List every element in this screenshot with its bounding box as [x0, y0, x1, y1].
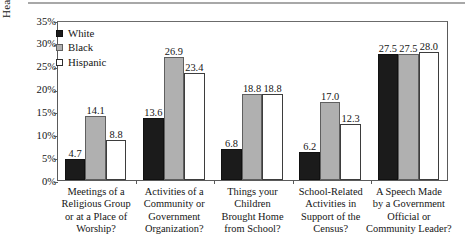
- legend-swatch-white-icon: [56, 30, 63, 37]
- x-category-line: Activities of a: [131, 186, 217, 198]
- x-category-line: Community or: [131, 198, 217, 210]
- bar-value-label: 18.8: [263, 83, 281, 94]
- bar-hispanic-group4: 12.3: [340, 124, 361, 180]
- legend-item-black: Black: [56, 41, 130, 56]
- legend-label-hispanic: Hispanic: [68, 57, 106, 68]
- y-tick-mark: [54, 91, 58, 92]
- x-tick-mark: [371, 180, 372, 184]
- bar-value-label: 6.8: [225, 138, 238, 149]
- bar-white-group3: 6.8: [221, 149, 242, 180]
- chart-legend: White Black Hispanic: [56, 26, 130, 70]
- bar-black-group4: 17.0: [320, 102, 341, 180]
- x-category-label: School-RelatedActivities inSupport of th…: [288, 186, 374, 235]
- bar-value-label: 6.2: [303, 141, 316, 152]
- x-category-line: from School?: [209, 223, 295, 235]
- bar-black-group5: 27.5: [398, 54, 419, 180]
- x-category-line: Census?: [288, 223, 374, 235]
- bar-black-group3: 18.8: [242, 94, 263, 180]
- x-category-label: Activities of aCommunity orGovernmentOrg…: [131, 186, 217, 235]
- bar-value-label: 26.9: [165, 46, 183, 57]
- bar-black-group1: 14.1: [85, 116, 106, 180]
- legend-item-hispanic: Hispanic: [56, 55, 130, 70]
- page-top-rule: [28, 2, 465, 4]
- bar-value-label: 4.7: [69, 148, 82, 159]
- y-tick-label: 25%: [20, 61, 56, 72]
- bar-value-label: 23.4: [185, 62, 203, 73]
- bar-black-group2: 26.9: [164, 57, 185, 180]
- y-tick-label: 0%: [20, 176, 56, 187]
- bar-chart: Heard from the Group 35%30%25%20%15%10%5…: [0, 0, 465, 250]
- y-axis-title: Heard from the Group: [0, 0, 14, 48]
- x-tick-mark: [293, 180, 294, 184]
- bar-value-label: 27.5: [399, 43, 417, 54]
- bar-value-label: 8.8: [110, 129, 123, 140]
- x-category-line: Religious Group: [53, 198, 139, 210]
- y-tick-mark: [54, 22, 58, 23]
- bar-value-label: 27.5: [379, 43, 397, 54]
- y-axis-tick-labels: 35%30%25%20%15%10%5%0%: [20, 14, 56, 189]
- x-tick-mark: [136, 180, 137, 184]
- x-category-line: Meetings of a: [53, 186, 139, 198]
- x-category-label: Things yourChildrenBrought Homefrom Scho…: [209, 186, 295, 235]
- y-tick-label: 15%: [20, 107, 56, 118]
- x-category-line: Support of the: [288, 211, 374, 223]
- x-category-line: Activities in: [288, 198, 374, 210]
- x-category-line: by a Government: [366, 198, 452, 210]
- bar-hispanic-group5: 28.0: [419, 52, 440, 180]
- legend-swatch-black-icon: [56, 44, 63, 51]
- x-category-line: Government: [131, 211, 217, 223]
- bar-hispanic-group3: 18.8: [262, 94, 283, 180]
- legend-label-black: Black: [68, 42, 93, 53]
- bar-white-group4: 6.2: [299, 152, 320, 180]
- y-tick-mark: [54, 182, 58, 183]
- bar-white-group1: 4.7: [65, 159, 86, 180]
- legend-swatch-hispanic-icon: [56, 59, 63, 66]
- bar-white-group2: 13.6: [143, 118, 164, 180]
- bar-white-group5: 27.5: [378, 54, 399, 180]
- x-category-line: A Speech Made: [366, 186, 452, 198]
- bar-hispanic-group1: 8.8: [106, 140, 127, 180]
- y-tick-label: 5%: [20, 153, 56, 164]
- y-tick-mark: [54, 159, 58, 160]
- x-category-label: A Speech Madeby a GovernmentOfficial orC…: [366, 186, 452, 235]
- bar-value-label: 13.6: [144, 107, 162, 118]
- x-category-line: Things your: [209, 186, 295, 198]
- x-category-line: Official or: [366, 211, 452, 223]
- y-tick-mark: [54, 113, 58, 114]
- x-category-line: or at a Place of: [53, 211, 139, 223]
- x-category-line: Organization?: [131, 223, 217, 235]
- bar-value-label: 12.3: [342, 113, 360, 124]
- legend-label-white: White: [68, 28, 94, 39]
- legend-item-white: White: [56, 26, 130, 41]
- y-tick-label: 10%: [20, 130, 56, 141]
- y-tick-label: 20%: [20, 84, 56, 95]
- x-category-line: Community Leader?: [366, 223, 452, 235]
- bar-value-label: 28.0: [420, 41, 438, 52]
- x-category-line: Children: [209, 198, 295, 210]
- x-tick-mark: [214, 180, 215, 184]
- bar-value-label: 18.8: [243, 83, 261, 94]
- y-tick-label: 30%: [20, 38, 56, 49]
- bar-hispanic-group2: 23.4: [184, 73, 205, 180]
- bar-value-label: 14.1: [87, 105, 105, 116]
- x-axis-category-labels: Meetings of aReligious Groupor at a Plac…: [57, 186, 448, 250]
- y-tick-label: 35%: [20, 16, 56, 27]
- bar-value-label: 17.0: [321, 91, 339, 102]
- x-category-label: Meetings of aReligious Groupor at a Plac…: [53, 186, 139, 235]
- x-category-line: School-Related: [288, 186, 374, 198]
- x-category-line: Brought Home: [209, 211, 295, 223]
- y-tick-mark: [54, 136, 58, 137]
- x-category-line: Worship?: [53, 223, 139, 235]
